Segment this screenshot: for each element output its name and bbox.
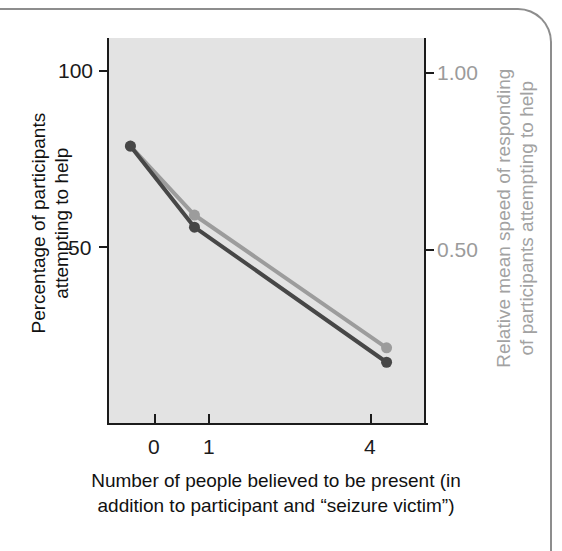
data-point-s1-x4 [381,357,392,368]
data-point-s0-x4 [381,342,392,353]
data-point-s1-x1 [189,222,200,233]
data-series-layer [0,0,562,551]
chart-figure: 100 50 1.00 0.50 0 1 4 Percentage of par… [0,0,562,551]
data-point-s1-x0 [125,141,136,152]
series-line-1 [130,146,386,362]
series-line-0 [130,146,386,348]
data-point-s0-x1 [189,210,200,221]
